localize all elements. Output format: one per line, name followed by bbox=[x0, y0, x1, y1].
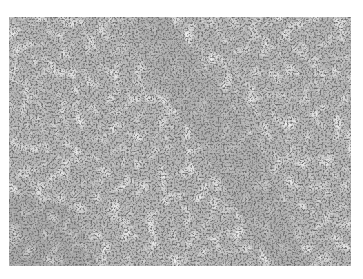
tissue-texture bbox=[9, 17, 351, 266]
histology-micrograph bbox=[9, 17, 351, 266]
